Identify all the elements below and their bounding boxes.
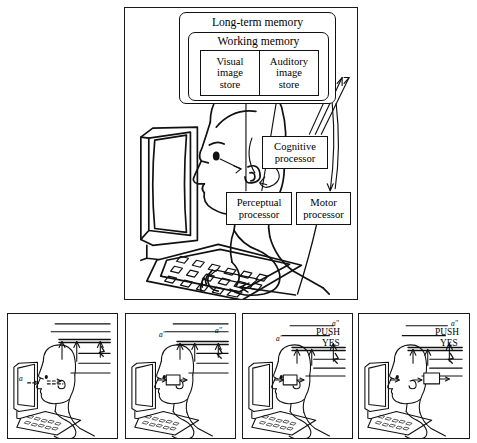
perceptual-processor-line-1: Perceptual <box>237 197 282 208</box>
main-panel: Long-term memory Working memory Visual i… <box>124 7 358 300</box>
figure-stage: Long-term memory Working memory Visual i… <box>0 0 477 443</box>
motor-processor-box: Motor processor <box>296 192 351 225</box>
long-term-memory-box: Long-term memory Working memory Visual i… <box>179 12 336 104</box>
visual-image-store: Visual image store <box>201 51 260 95</box>
auditory-image-store-line-1: Auditory <box>270 56 308 67</box>
sequence-panel-3-label-a-prime: a' <box>276 335 281 342</box>
motor-processor-line-2: processor <box>303 209 344 220</box>
sequence-panel-4: a'' PUSH YES <box>358 313 470 439</box>
auditory-image-store-line-2: image <box>276 67 302 78</box>
visual-image-store-line-2: image <box>217 67 243 78</box>
cognitive-processor-box: Cognitive processor <box>262 136 328 169</box>
sequence-panel-3-label-yes: YES <box>322 339 340 348</box>
auditory-image-store: Auditory image store <box>260 51 318 95</box>
visual-image-store-line-3: store <box>220 79 241 90</box>
sequence-panel-3-label-push: PUSH <box>316 328 340 337</box>
motor-processor-line-1: Motor <box>310 197 336 208</box>
sequence-panel-1-label-a: a <box>19 375 23 382</box>
sequence-panel-4-label-push: PUSH <box>435 328 459 337</box>
perceptual-processor-box: Perceptual processor <box>226 192 292 225</box>
cognitive-processor-line-2: processor <box>275 153 316 164</box>
image-stores-group: Visual image store Auditory image store <box>200 50 319 96</box>
visual-image-store-line-1: Visual <box>216 56 243 67</box>
working-memory-label: Working memory <box>189 35 328 48</box>
working-memory-box: Working memory Visual image store Audito… <box>188 32 329 101</box>
sequence-panel-4-label-yes: YES <box>440 339 458 348</box>
sequence-panel-1-lineart <box>8 314 117 438</box>
sequence-panel-3: a' a'' PUSH YES <box>242 313 353 439</box>
auditory-image-store-line-3: store <box>279 79 300 90</box>
sequence-panel-2: a' a'' <box>125 313 236 439</box>
long-term-memory-label: Long-term memory <box>180 16 335 29</box>
sequence-panel-2-label-a-dprime: a'' <box>215 327 222 334</box>
sequence-panel-1: a <box>7 313 118 439</box>
sequence-panel-2-label-a-prime: a' <box>159 331 164 338</box>
perceptual-processor-line-2: processor <box>239 209 280 220</box>
cognitive-processor-line-1: Cognitive <box>274 141 316 152</box>
